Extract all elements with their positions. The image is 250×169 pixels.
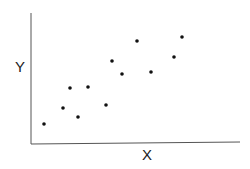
y-axis-label: Y xyxy=(15,58,25,75)
data-point xyxy=(61,106,65,110)
data-point xyxy=(42,122,46,126)
x-axis-label: X xyxy=(142,146,152,163)
data-point xyxy=(135,39,139,43)
data-point xyxy=(120,72,124,76)
scatter-plot xyxy=(0,0,250,169)
data-point xyxy=(110,59,114,63)
data-point xyxy=(86,85,90,89)
data-points xyxy=(42,35,184,126)
x-axis xyxy=(31,142,240,144)
data-point xyxy=(149,70,153,74)
data-point xyxy=(180,35,184,39)
data-point xyxy=(172,55,176,59)
data-point xyxy=(104,103,108,107)
data-point xyxy=(76,115,80,119)
data-point xyxy=(68,86,72,90)
